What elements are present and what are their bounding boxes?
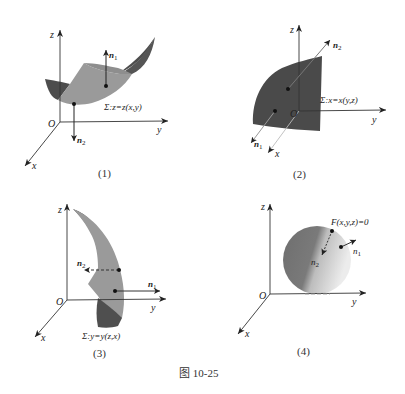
panel-label: (3) (93, 347, 106, 360)
n2-label: n2 (77, 135, 86, 147)
figure-caption: 图 10-25 (179, 367, 219, 379)
n1-label: n1 (353, 246, 362, 258)
x-axis-label: x (40, 332, 46, 343)
x-axis-label: x (31, 160, 37, 171)
panel-label: (4) (297, 345, 310, 358)
n1-label: n1 (109, 50, 118, 62)
panel-label: (2) (293, 168, 306, 181)
n1-label: n1 (148, 279, 157, 291)
sphere-surface (283, 226, 351, 294)
y-axis-label: y (156, 124, 162, 135)
panel-1: z O y x n1 n2 Σ:z=z(x,y) (1) (25, 29, 168, 180)
z-axis-label: z (260, 201, 265, 212)
surface-equation-label: Σ:x=x(y,z) (319, 95, 358, 105)
z-axis-label: z (49, 29, 54, 40)
z-axis-label: z (57, 204, 62, 215)
y-axis (60, 121, 168, 122)
x-axis-label: x (244, 328, 250, 339)
panel-2: z O y x n2 n1 Σ:x=x(y,z) (2) (251, 24, 386, 181)
origin-label: O (56, 296, 63, 307)
x-axis-label: x (274, 148, 280, 159)
panel-label: (1) (98, 167, 111, 180)
surface-y-of-zx (73, 209, 124, 328)
y-axis (67, 299, 166, 300)
y-axis-label: y (150, 302, 156, 313)
n2-label: n2 (333, 40, 342, 52)
y-axis-label: y (351, 296, 357, 307)
panel-3: z O y x n2 n1 Σ:y=y(z,x) (3) (35, 204, 166, 360)
y-axis-label: y (371, 114, 377, 125)
surface-equation-label: Σ:z=z(x,y) (103, 102, 142, 112)
origin-label: O (48, 118, 55, 129)
origin-label: O (290, 108, 297, 119)
surface-equation-label: Σ:y=y(z,x) (81, 331, 120, 341)
surface-equation-label: F(x,y,z)=0 (330, 217, 369, 227)
n2-label: n2 (77, 258, 86, 270)
panel-4: z O y x F(x,y,z)=0 n1 n2 (4) (238, 201, 369, 358)
surface-x-of-yz (253, 56, 322, 131)
n1-label: n1 (254, 139, 263, 151)
origin-label: O (259, 290, 266, 301)
surface-z-of-xy (45, 37, 155, 105)
diagram-canvas: z O y x n1 n2 Σ:z=z(x,y) (1) z O y x n2 … (0, 0, 405, 394)
z-axis-label: z (289, 24, 294, 35)
